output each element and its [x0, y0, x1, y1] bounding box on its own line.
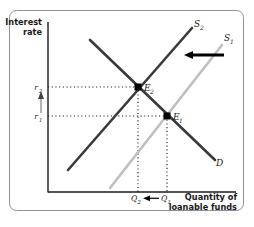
x-tick-label-q2-subscript: 2 — [137, 199, 142, 205]
equilibrium-marker-e1 — [164, 113, 171, 120]
equilibrium-marker-e2 — [135, 84, 142, 91]
x-tick-label-q2: Q — [131, 194, 137, 203]
curve-label-d: D — [215, 158, 223, 168]
y-tick-label-r1-subscript: 1 — [39, 117, 42, 123]
x-axis-label-line2: loanable funds — [169, 202, 237, 212]
y-axis-label-line1: Interest — [5, 17, 42, 27]
y-axis-label-line2: rate — [23, 27, 42, 37]
x-axis-label-line1: Quantity of — [185, 192, 238, 202]
y-tick-label-r2: r — [34, 83, 38, 92]
x-tick-label-q1-subscript: 1 — [168, 199, 171, 205]
equilibrium-label-e2-subscript: 2 — [149, 88, 154, 95]
figure-frame — [10, 11, 244, 211]
curve-label-s2-subscript: 2 — [199, 24, 204, 31]
x-tick-label-q1: Q — [161, 194, 167, 203]
chart-canvas: Interest rate Quantity of loanable funds… — [0, 0, 254, 227]
equilibrium-label-e1-subscript: 1 — [179, 117, 183, 124]
y-tick-label-r1: r — [34, 112, 38, 121]
curve-label-s1-subscript: 1 — [230, 38, 234, 45]
loanable-funds-figure: Interest rate Quantity of loanable funds… — [0, 0, 254, 227]
